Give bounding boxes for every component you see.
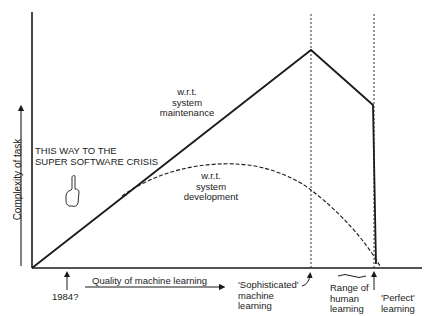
development-label: w.r.t. system development bbox=[180, 171, 242, 203]
y-axis-label: Complexity of task bbox=[12, 125, 23, 235]
human-range-brace bbox=[338, 275, 366, 278]
maintenance-label: w.r.t. system maintenance bbox=[142, 87, 232, 119]
crisis-annotation-line2: SUPER SOFTWARE CRISIS bbox=[35, 157, 158, 168]
marker-sophisticated-line1: 'Sophisticated' bbox=[238, 280, 299, 291]
development-curve bbox=[122, 164, 380, 266]
x-axis-label: Quality of machine learning bbox=[92, 276, 207, 287]
marker-sophisticated-arrow bbox=[302, 275, 310, 286]
maintenance-label-line1: w.r.t. bbox=[142, 87, 232, 98]
marker-sophisticated-label: 'Sophisticated' machine learning bbox=[238, 280, 299, 312]
marker-human-line1: Range of bbox=[330, 283, 369, 294]
pointing-hand-icon bbox=[66, 175, 79, 206]
marker-1984-label: 1984? bbox=[52, 292, 78, 303]
marker-perfect-line1: 'Perfect' bbox=[381, 293, 415, 304]
development-label-line3: development bbox=[180, 192, 242, 203]
development-label-line1: w.r.t. bbox=[180, 171, 242, 182]
crisis-annotation-line1: THIS WAY TO THE bbox=[35, 146, 158, 157]
crisis-annotation: THIS WAY TO THE SUPER SOFTWARE CRISIS bbox=[35, 146, 158, 167]
marker-sophisticated-line3: learning bbox=[238, 301, 299, 312]
marker-perfect-line2: learning bbox=[381, 304, 415, 315]
marker-human-line3: learning bbox=[330, 304, 369, 315]
maintenance-label-line3: maintenance bbox=[142, 108, 232, 119]
marker-human-label: Range of human learning bbox=[330, 283, 369, 315]
marker-perfect-label: 'Perfect' learning bbox=[381, 293, 415, 314]
